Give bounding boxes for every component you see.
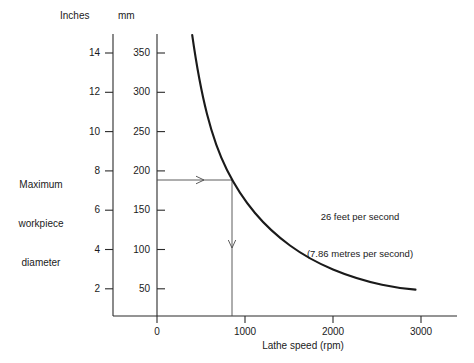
- mm-tick-label-100: 100: [118, 244, 150, 257]
- surface-speed-annotation: 26 feet per second (7.86 metres per seco…: [285, 186, 435, 285]
- x-tick-label-2000: 2000: [313, 326, 353, 339]
- annotation-line-1: 26 feet per second: [285, 211, 435, 223]
- horizontal-guide-arrow: [157, 176, 232, 184]
- vertical-guide-arrow: [228, 180, 235, 316]
- mm-tick-label-300: 300: [118, 86, 150, 99]
- inches-tick-label-10: 10: [70, 126, 100, 139]
- annotation-line-2: (7.86 metres per second): [285, 248, 435, 260]
- mm-tick-label-250: 250: [118, 126, 150, 139]
- mm-axis-header: mm: [118, 10, 158, 23]
- mm-tick-label-200: 200: [118, 165, 150, 178]
- inches-tick-label-14: 14: [70, 47, 100, 60]
- chart-figure: Inches mm 14 12 10 8 6 4 2 350 300 250 2…: [0, 0, 474, 363]
- mm-axis-ticks: [157, 53, 165, 289]
- inches-axis-ticks: [105, 53, 113, 289]
- y-axis-title-line2: workpiece: [6, 217, 76, 230]
- mm-tick-label-50: 50: [118, 283, 150, 296]
- x-axis-ticks: [157, 316, 421, 323]
- x-tick-label-1000: 1000: [225, 326, 265, 339]
- y-axis-title-line1: Maximum: [6, 178, 76, 191]
- x-tick-label-0: 0: [137, 326, 177, 339]
- inches-axis-header: Inches: [60, 10, 108, 23]
- y-axis-title-line3: diameter: [6, 256, 76, 269]
- mm-tick-label-150: 150: [118, 204, 150, 217]
- y-axis-title: Maximum workpiece diameter: [6, 152, 76, 295]
- x-axis-title: Lathe speed (rpm): [228, 340, 378, 353]
- mm-tick-label-350: 350: [118, 47, 150, 60]
- inches-tick-label-12: 12: [70, 86, 100, 99]
- x-tick-label-3000: 3000: [401, 326, 441, 339]
